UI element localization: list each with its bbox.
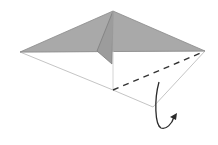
white-paper-region <box>20 51 205 107</box>
origami-diagram <box>0 0 218 145</box>
